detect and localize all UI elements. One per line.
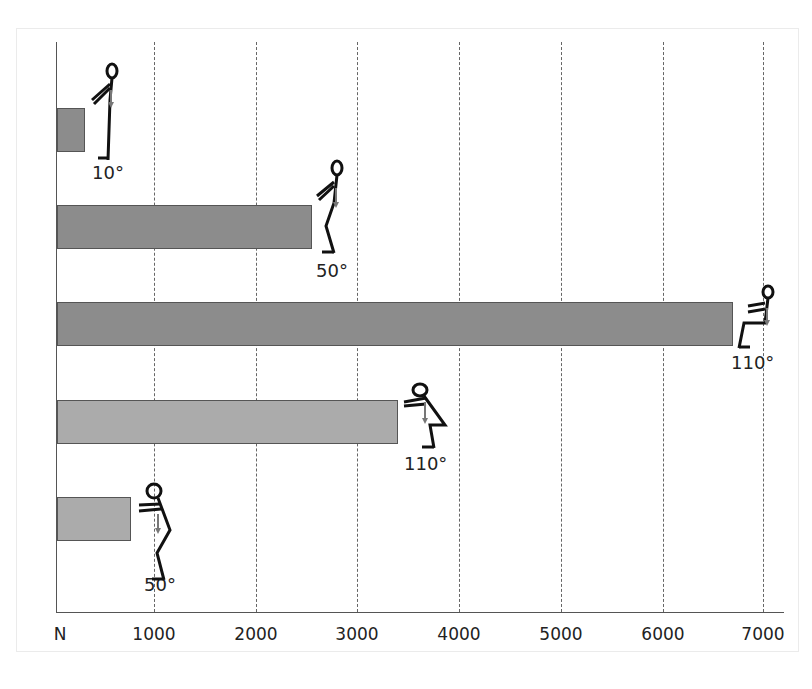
angle-label: 50°	[316, 260, 348, 281]
stick-figure-squat-50-light-icon	[136, 478, 181, 582]
x-tick-label: 7000	[741, 624, 784, 644]
bar-squat-50deg-light	[57, 497, 131, 541]
bar-squat-50deg	[57, 205, 312, 249]
stick-figure-crouch-110-icon	[400, 380, 450, 454]
bar-crouch-110deg	[57, 400, 398, 444]
x-tick-label: 1000	[132, 624, 175, 644]
x-tick-label: 6000	[641, 624, 684, 644]
x-tick-label: 2000	[234, 624, 277, 644]
stick-figure-standing-icon	[88, 60, 128, 164]
bar-standing-10deg	[57, 108, 85, 152]
stick-figure-squat-50-icon	[314, 158, 354, 262]
x-axis-unit-label: N	[54, 624, 67, 644]
x-axis	[56, 612, 784, 613]
x-tick-label: 4000	[437, 624, 480, 644]
angle-label: 110°	[404, 453, 447, 474]
x-tick-label: 3000	[335, 624, 378, 644]
stick-figure-seated-110-icon	[736, 280, 786, 354]
angle-label: 10°	[92, 162, 124, 183]
angle-label: 110°	[731, 352, 774, 373]
bar-seated-110deg	[57, 302, 733, 346]
x-tick-label: 5000	[539, 624, 582, 644]
